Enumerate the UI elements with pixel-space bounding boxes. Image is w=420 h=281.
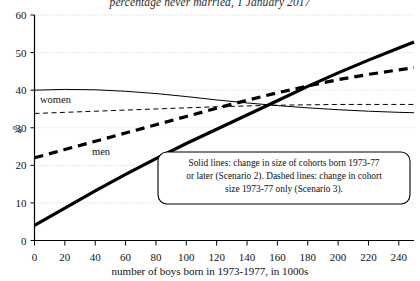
series-women-scenario-2 [35,89,415,112]
x-tick-label-120: 120 [208,251,225,263]
x-axis-ticks [35,241,399,246]
x-tick-label-60: 60 [120,251,132,263]
x-tick-label-220: 220 [360,251,377,263]
women-series-label: women [40,94,72,105]
x-tick-label-20: 20 [59,251,71,263]
scenario-note-line-1: Solid lines: change in size of cohorts b… [188,158,379,168]
x-tick-label-200: 200 [330,251,347,263]
x-tick-label-240: 240 [391,251,408,263]
x-axis-title: number of boys born in 1973-1977, in 100… [112,265,309,277]
x-tick-label-140: 140 [239,251,256,263]
chart-figure: percentage never married, 1 January 2017… [0,0,420,281]
x-axis-tick-labels: 020406080100120140160180200220240 [32,251,408,263]
x-tick-label-180: 180 [299,251,316,263]
y-tick-label-50: 50 [16,47,28,59]
men-series-label: men [92,146,111,157]
x-tick-label-80: 80 [150,251,162,263]
scenario-note-line-3: size 1973-77 only (Scenario 3). [225,184,343,195]
scenario-note-line-2: or later (Scenario 2). Dashed lines: cha… [186,171,382,182]
y-axis-title: % [13,123,22,135]
x-tick-label-0: 0 [32,251,38,263]
x-tick-label-100: 100 [178,251,195,263]
y-tick-label-40: 40 [16,84,28,96]
y-tick-label-60: 60 [16,9,28,21]
series-men-scenario-3 [35,68,415,158]
y-tick-label-10: 10 [16,197,28,209]
x-tick-label-160: 160 [269,251,286,263]
x-tick-label-40: 40 [90,251,102,263]
scenario-note-box: Solid lines: change in size of cohorts b… [158,152,410,204]
y-tick-label-20: 20 [16,159,28,171]
y-tick-label-0: 0 [21,235,27,247]
chart-plot-area: 0102030405060 02040608010012014016018020… [0,0,420,281]
